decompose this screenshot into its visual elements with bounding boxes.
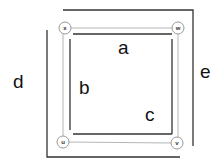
node-u-label: u: [61, 139, 65, 145]
label-c: c: [145, 105, 155, 124]
node-w-label: w: [175, 25, 181, 31]
edge-u-v: [68, 142, 171, 143]
graph-diagram: x w u v: [0, 0, 223, 165]
label-a: a: [118, 38, 129, 57]
label-d: d: [13, 72, 24, 91]
label-e: e: [200, 62, 211, 81]
label-b: b: [79, 78, 90, 97]
